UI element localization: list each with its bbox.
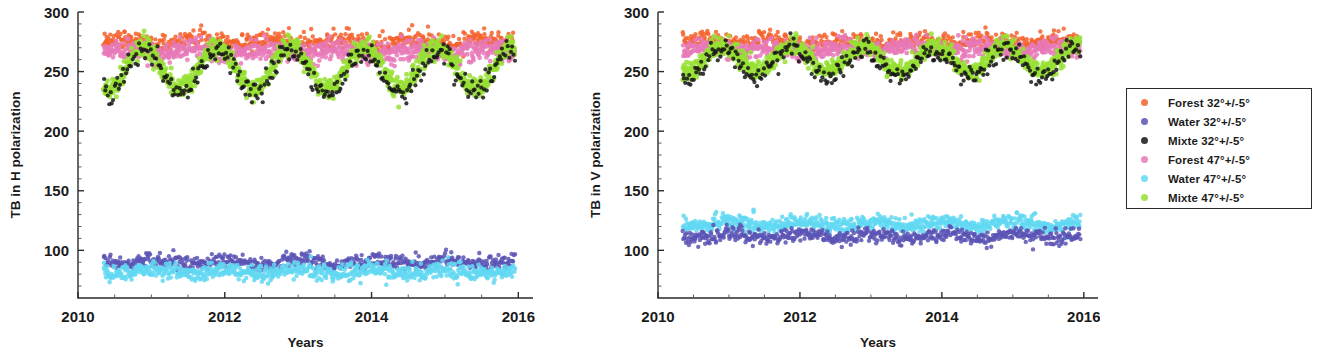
svg-text:2012: 2012 (783, 308, 816, 325)
svg-text:300: 300 (44, 4, 69, 21)
svg-text:100: 100 (44, 242, 69, 259)
svg-text:2016: 2016 (502, 308, 535, 325)
svg-text:300: 300 (624, 4, 649, 21)
chart-panel-h-polarization: 1001502002503002010201220142016YearsTB i… (0, 0, 580, 354)
legend-label: Mixte 47°+/-5° (1168, 192, 1244, 204)
svg-text:Years: Years (287, 335, 323, 350)
legend-marker-forest32-icon (1141, 99, 1148, 106)
legend-marker-mixte47-icon (1141, 194, 1148, 201)
svg-text:250: 250 (624, 63, 649, 80)
legend-item: Forest 47°+/-5° (1127, 150, 1311, 169)
svg-text:TB in V polarization: TB in V polarization (588, 92, 603, 218)
series-legend: Forest 32°+/-5° Water 32°+/-5° Mixte 32°… (1126, 88, 1312, 209)
svg-text:2014: 2014 (925, 308, 959, 325)
legend-item: Water 32°+/-5° (1127, 112, 1311, 131)
legend-item: Water 47°+/-5° (1127, 169, 1311, 188)
legend-marker-forest47-icon (1141, 156, 1148, 163)
svg-text:Years: Years (860, 335, 896, 350)
svg-text:TB in H polarization: TB in H polarization (8, 92, 23, 219)
legend-label: Water 32°+/-5° (1168, 116, 1246, 128)
figure-root: 1001502002503002010201220142016YearsTB i… (0, 0, 1322, 354)
legend-marker-water32-icon (1141, 118, 1148, 125)
legend-marker-water47-icon (1141, 175, 1148, 182)
svg-text:2010: 2010 (641, 308, 674, 325)
legend-item: Mixte 47°+/-5° (1127, 188, 1311, 207)
legend-label: Forest 47°+/-5° (1168, 154, 1250, 166)
legend-label: Forest 32°+/-5° (1168, 97, 1250, 109)
plot-svg-h: 1001502002503002010201220142016YearsTB i… (0, 0, 580, 354)
svg-text:100: 100 (624, 242, 649, 259)
svg-text:2010: 2010 (61, 308, 94, 325)
chart-panel-v-polarization: 1001502002503002010201220142016YearsTB i… (580, 0, 1100, 354)
svg-text:2016: 2016 (1067, 308, 1100, 325)
svg-text:150: 150 (624, 182, 649, 199)
svg-text:250: 250 (44, 63, 69, 80)
svg-text:2012: 2012 (208, 308, 241, 325)
svg-text:2014: 2014 (355, 308, 389, 325)
plot-svg-v: 1001502002503002010201220142016YearsTB i… (580, 0, 1100, 354)
legend-item: Mixte 32°+/-5° (1127, 131, 1311, 150)
legend-item: Forest 32°+/-5° (1127, 93, 1311, 112)
svg-text:150: 150 (44, 182, 69, 199)
svg-text:200: 200 (44, 123, 69, 140)
legend-label: Water 47°+/-5° (1168, 173, 1246, 185)
svg-text:200: 200 (624, 123, 649, 140)
legend-marker-mixte32-icon (1141, 137, 1148, 144)
legend-label: Mixte 32°+/-5° (1168, 135, 1244, 147)
